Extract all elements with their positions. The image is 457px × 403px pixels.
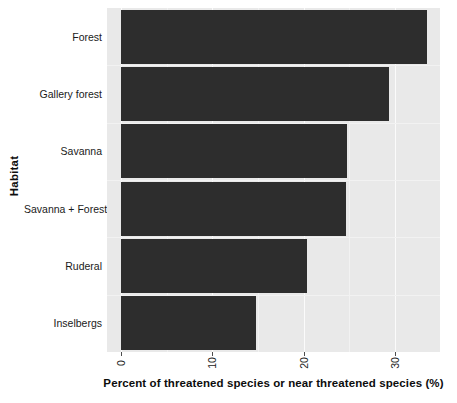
gridline-horizontal-minor [107,65,440,66]
y-axis-tick-label: Savanna [24,146,102,157]
x-axis-tick-label: 10 [202,357,222,369]
x-axis-tick-label-text: 0 [115,360,127,366]
x-axis-tick-mark [304,352,305,356]
x-axis-tick-labels: 0102030 [107,357,440,375]
x-axis-tick-mark [121,352,122,356]
y-axis-tick-label: Ruderal [24,261,102,272]
bar [121,182,346,236]
x-axis-tick-label: 30 [385,357,405,369]
x-axis-tick-label-text: 20 [298,357,310,369]
x-axis-tick-label: 0 [111,357,131,369]
x-axis-tick-label-text: 30 [389,357,401,369]
x-axis-tick-mark [212,352,213,356]
y-axis-tick-label: Savanna + Forest [24,203,102,214]
bar [121,296,256,350]
y-axis-tick-label: Forest [24,31,102,42]
bar [121,124,347,178]
y-axis-tick-label: Gallery forest [24,89,102,100]
x-axis-title: Percent of threatened species or near th… [90,377,457,389]
x-axis-tick-label: 20 [294,357,314,369]
bar [121,67,389,121]
x-axis-tick-label-text: 10 [206,357,218,369]
plot-panel [107,8,440,352]
y-axis-title-text: Habitat [8,156,20,196]
y-axis-tick-label: Inselbergs [24,318,102,329]
gridline-horizontal-minor [107,237,440,238]
x-axis-tick-mark [395,352,396,356]
bar [121,239,307,293]
bar-chart-figure: Habitat ForestGallery forestSavannaSavan… [0,0,457,403]
y-axis-tick-labels: ForestGallery forestSavannaSavanna + For… [24,8,102,352]
bar [121,10,427,64]
